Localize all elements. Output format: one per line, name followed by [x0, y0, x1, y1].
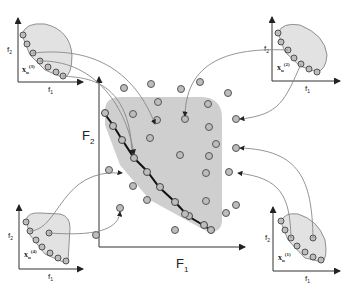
- subplot-x-label: f1: [48, 85, 53, 95]
- subplot-solution-label: xu(3): [22, 64, 35, 75]
- main-y-axis-label: F2: [82, 128, 95, 146]
- subplot-y-label: f2: [8, 231, 13, 241]
- arrow-icon: [240, 64, 301, 119]
- subplot-solution-label: xu(2): [277, 62, 290, 73]
- subplot-bottom-right: f2 f1 xu(1): [265, 207, 340, 284]
- pareto-mapping-diagram: F2 F1: [0, 0, 351, 290]
- subplot-x-label: f1: [305, 274, 310, 284]
- subplot-x-label: f1: [305, 84, 310, 94]
- subplot-y-label: f2: [265, 233, 270, 243]
- subplot-bottom-left: f2 f1 xu(4): [8, 205, 83, 282]
- subplot-top-left: f2 f1 xu(3): [7, 18, 83, 95]
- main-x-axis-label: F1: [176, 256, 189, 274]
- subplot-y-label: f2: [7, 45, 12, 55]
- subplot-x-label: f1: [48, 272, 53, 282]
- subplot-top-right: f2 f1 xu(2): [264, 17, 340, 94]
- subplot-solution-label: xu(4): [24, 249, 37, 260]
- subplot-solution-label: xu(1): [278, 252, 291, 263]
- main-plot: F2 F1: [82, 77, 245, 274]
- subplot-y-label: f2: [264, 44, 269, 54]
